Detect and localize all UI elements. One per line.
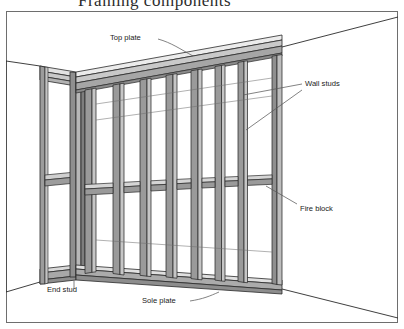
framing-diagram-figure: Framing components bbox=[0, 0, 404, 329]
label-sole-plate: Sole plate bbox=[142, 296, 176, 305]
wall-stud bbox=[166, 74, 173, 278]
label-fire-block: Fire block bbox=[300, 204, 333, 213]
end-stud-body bbox=[70, 72, 76, 277]
fire-block-face bbox=[124, 186, 140, 193]
fire-block-face bbox=[177, 183, 191, 189]
wall-stud bbox=[113, 84, 120, 275]
fire-block-face bbox=[225, 181, 238, 187]
wall-stud bbox=[85, 89, 92, 274]
wall-stud-side bbox=[173, 74, 177, 279]
cropped-title-row: Framing components bbox=[0, 0, 404, 11]
label-wall-studs: Wall studs bbox=[305, 79, 340, 88]
fire-block-face bbox=[151, 184, 166, 191]
label-end-stud: End stud bbox=[47, 285, 77, 294]
end-stud-assembly bbox=[70, 72, 85, 278]
wall-stud-side bbox=[147, 78, 151, 276]
label-top-plate: Top plate bbox=[110, 33, 141, 42]
end-stud-corner-face bbox=[81, 73, 85, 278]
fire-block-face bbox=[202, 182, 215, 188]
fire-block-face bbox=[85, 188, 113, 196]
fire-block-face bbox=[248, 179, 273, 186]
return-wall-left-stud bbox=[40, 66, 45, 284]
wall-stud bbox=[140, 79, 147, 276]
end-stud-return-face bbox=[76, 73, 81, 278]
wall-stud-side bbox=[92, 88, 96, 272]
wall-stud-side bbox=[198, 69, 202, 280]
wall-stud-side bbox=[120, 83, 124, 275]
wall-stud bbox=[238, 61, 244, 282]
cropped-title-text: Framing components bbox=[78, 0, 231, 11]
framing-diagram-svg: Top plate Wall studs Fire block End stud… bbox=[0, 0, 404, 329]
wall-stud bbox=[191, 70, 198, 280]
wall-stud-side bbox=[277, 55, 282, 286]
